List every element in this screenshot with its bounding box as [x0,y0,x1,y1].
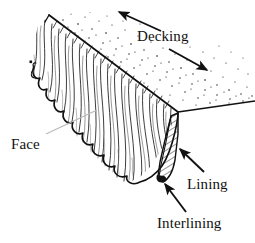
carpet-construction-diagram: Decking Face Lining Interlining [0,0,255,243]
pile-marker-square [30,61,33,64]
lining-hatched-band [158,113,178,182]
label-interlining: Interlining [157,216,221,231]
label-face: Face [11,137,40,152]
diagram-canvas [0,0,255,243]
interlining-arrow [165,184,186,212]
right-edge-line [178,101,255,112]
pile-scalloped-hem [33,66,178,184]
lining-arrow [180,149,204,172]
label-decking: Decking [137,29,189,44]
decking-arrow-downright [169,49,207,70]
label-lining: Lining [187,177,228,192]
decking-top-tick [45,15,49,22]
